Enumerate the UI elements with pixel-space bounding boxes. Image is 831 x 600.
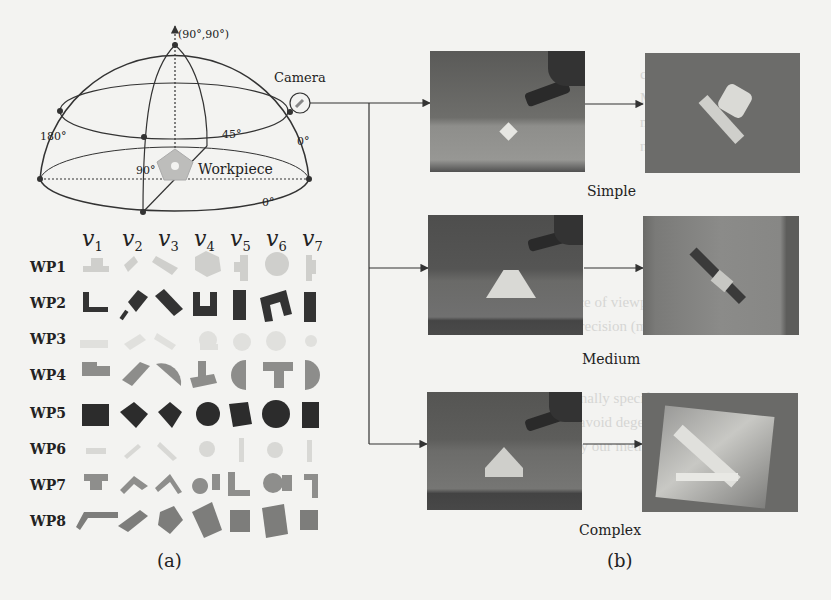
row-label-wp8: WP8 <box>30 513 66 529</box>
robot-body <box>554 215 583 245</box>
row-label-wp2: WP2 <box>30 295 66 311</box>
closeup-photo-complex <box>642 393 798 512</box>
grid-row-wp8 <box>76 502 318 538</box>
row-label-wp7: WP7 <box>30 477 66 493</box>
closeup-photo-medium <box>643 216 799 335</box>
robot-body <box>548 51 585 86</box>
closeup-photo-simple <box>645 53 800 173</box>
row-label-wp5: WP5 <box>30 405 66 421</box>
column-label-v4: v4 <box>194 226 215 254</box>
angle-label-0-bottom: 0° <box>262 196 275 209</box>
column-label-v3: v3 <box>158 226 179 254</box>
angle-label-45: 45° <box>222 128 242 141</box>
row-label-wp4: WP4 <box>30 367 66 383</box>
workpiece-label: Workpiece <box>198 161 273 177</box>
scene-label-complex: Complex <box>579 522 641 538</box>
paper-sheet <box>486 270 536 298</box>
grid-row-wp2 <box>83 289 316 322</box>
row-label-wp1: WP1 <box>30 259 66 275</box>
column-label-v5: v5 <box>230 226 251 254</box>
camera-icon <box>290 93 310 113</box>
angle-label-90: 90° <box>136 164 156 177</box>
scene-photo-medium <box>428 215 583 335</box>
row-label-wp6: WP6 <box>30 441 66 457</box>
scene-photo-complex <box>427 392 582 510</box>
grid-row-wp6 <box>86 438 312 462</box>
scene-photo-simple <box>430 51 585 172</box>
grid-row-wp3 <box>80 331 317 351</box>
column-label-v2: v2 <box>122 226 143 254</box>
workpiece-on-table <box>499 122 517 140</box>
workpiece-grid <box>76 251 320 538</box>
panel-a-caption: (a) <box>157 550 182 571</box>
camera-label: Camera <box>274 70 326 85</box>
angle-label-0-right: 0° <box>297 135 310 148</box>
scene-label-medium: Medium <box>582 351 640 367</box>
cluttered-workpiece <box>485 447 523 477</box>
workpiece-icon <box>157 149 193 180</box>
zenith-label: (90°,90°) <box>178 28 229 41</box>
grid-row-wp7 <box>84 472 318 498</box>
angle-label-180: 180° <box>40 130 67 143</box>
grid-row-wp5 <box>82 400 319 428</box>
package-label <box>676 473 738 481</box>
column-label-v6: v6 <box>266 226 287 254</box>
row-label-wp3: WP3 <box>30 331 66 347</box>
column-label-v7: v7 <box>302 226 323 254</box>
grid-row-wp1 <box>83 251 316 281</box>
scene-label-simple: Simple <box>587 183 636 199</box>
column-label-v1: v1 <box>82 226 103 254</box>
panel-b-caption: (b) <box>607 550 633 571</box>
robot-body <box>549 392 582 422</box>
hemisphere-diagram <box>40 26 309 212</box>
grid-row-wp4 <box>82 360 320 390</box>
